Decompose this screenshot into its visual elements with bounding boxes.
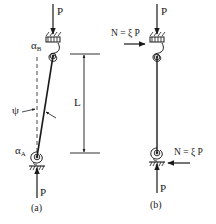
- rotational-spring-a-icon: [31, 152, 42, 165]
- rotational-spring-bottom-b-icon: [151, 148, 162, 161]
- spring-b-label: αB: [31, 40, 41, 53]
- bottom-load-label-b: P: [160, 183, 166, 194]
- angle-arrow-left: [22, 109, 35, 112]
- top-lateral-force-label: N = ξ P: [111, 29, 140, 39]
- panel-b-caption: (b): [150, 200, 162, 210]
- top-load-label-b: P: [161, 6, 167, 17]
- rotational-spring-top-b-icon: [153, 43, 163, 61]
- angle-arrow-right: [46, 112, 56, 118]
- spring-b-subscript: B: [37, 45, 42, 53]
- spring-a-label: αA: [15, 145, 26, 158]
- panel-a-caption: (a): [31, 203, 42, 213]
- length-label: L: [74, 97, 81, 108]
- spring-a-subscript: A: [21, 150, 26, 158]
- diagram-canvas: [0, 0, 216, 224]
- panel-a: [22, 4, 100, 198]
- top-load-label-a: P: [57, 6, 63, 17]
- column-a: [37, 56, 53, 157]
- angle-label: ψ: [12, 105, 19, 116]
- bottom-load-label-a: P: [40, 187, 46, 198]
- bottom-lateral-force-label: N = ξ P: [174, 148, 203, 158]
- rotational-spring-b-icon: [49, 43, 59, 61]
